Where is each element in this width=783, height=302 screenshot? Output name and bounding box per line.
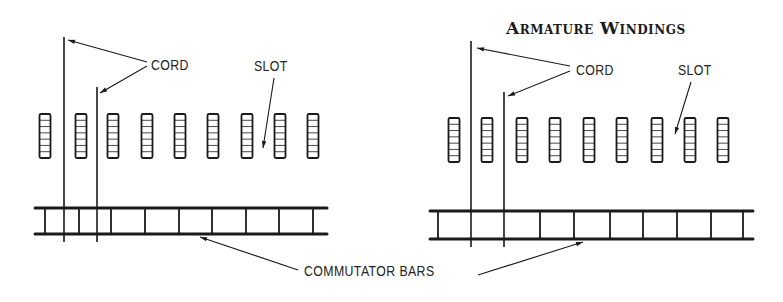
leader-slot-left xyxy=(263,78,274,148)
slot xyxy=(449,118,460,162)
armature-windings-diagram: Armature Windings CORD SLOT CORD SLOT CO… xyxy=(0,0,783,302)
slot-label-left: SLOT xyxy=(254,57,288,74)
cord-label-right: CORD xyxy=(576,61,614,78)
leader-commutator-right xyxy=(478,242,583,275)
slot xyxy=(242,114,253,158)
slot xyxy=(40,114,51,158)
slot xyxy=(76,114,87,158)
leader-commutator-left xyxy=(200,237,298,270)
arrowhead xyxy=(200,237,207,241)
arrowhead xyxy=(262,141,266,148)
arrowhead xyxy=(675,127,679,134)
slot xyxy=(142,114,153,158)
slot xyxy=(175,114,186,158)
slot xyxy=(308,114,319,158)
slot xyxy=(617,118,628,162)
slot xyxy=(718,118,729,162)
leader-cord-right-lower xyxy=(508,71,570,96)
slot xyxy=(482,118,493,162)
leader-slot-right xyxy=(675,82,691,134)
leader-cord-left-lower xyxy=(100,66,147,93)
slot-label-right: SLOT xyxy=(678,61,712,78)
arrowhead xyxy=(508,91,515,96)
diagram-drawing xyxy=(0,0,783,302)
slot xyxy=(550,118,561,162)
slot xyxy=(652,118,663,162)
leader-cord-left-upper xyxy=(68,40,147,62)
slot xyxy=(517,118,528,162)
slot xyxy=(208,114,219,158)
slot xyxy=(584,118,595,162)
arrowhead xyxy=(68,40,75,44)
leader-cord-right-upper xyxy=(477,48,570,66)
slot xyxy=(108,114,119,158)
commutator-bars-label: COMMUTATOR BARS xyxy=(304,262,435,279)
slot xyxy=(685,118,696,162)
arrowhead xyxy=(100,88,107,93)
slot xyxy=(275,114,286,158)
arrowhead xyxy=(576,242,583,246)
diagram-title: Armature Windings xyxy=(506,18,686,38)
cord-label-left: CORD xyxy=(151,56,189,73)
